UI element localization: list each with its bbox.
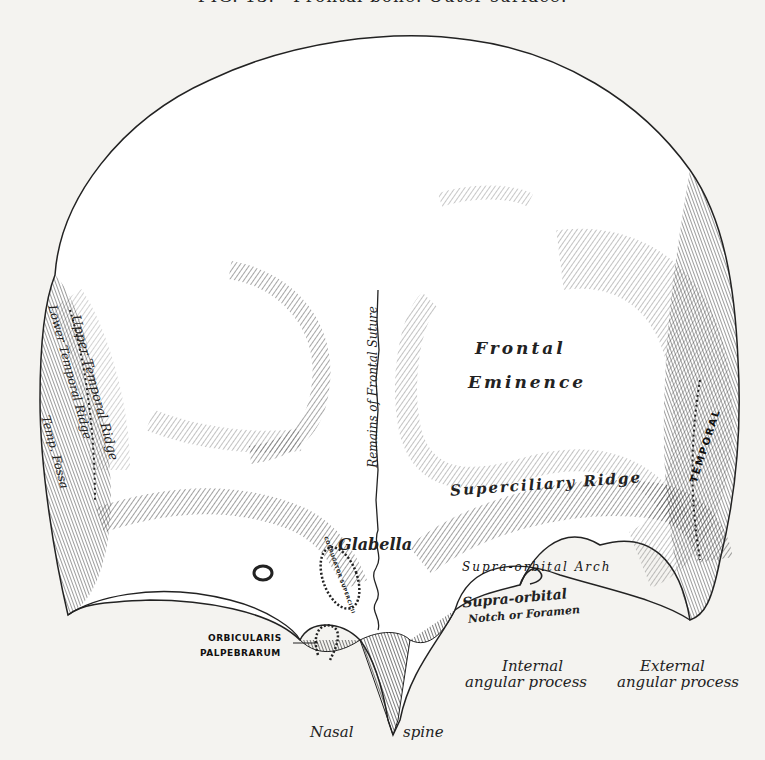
label-frontal: Frontal (475, 338, 566, 358)
label-external-angular-2: angular process (617, 673, 739, 691)
bone-outline (40, 36, 739, 735)
nasal-spine (360, 633, 410, 736)
left-supra-orbital-foramen (254, 566, 272, 580)
label-internal-angular-2: angular process (465, 673, 587, 691)
figure-canvas: FIG. 13.—Frontal bone. Outer surface. (0, 0, 765, 760)
label-orbicularis-1: ORBICULARIS (208, 633, 282, 643)
label-eminence: Eminence (468, 372, 586, 392)
label-spine: spine (403, 723, 444, 741)
frontal-bone-illustration (0, 0, 765, 760)
label-orbicularis-2: PALPEBRARUM (200, 648, 281, 658)
label-nasal: Nasal (310, 723, 354, 741)
label-glabella: Glabella (338, 535, 412, 554)
label-supra-orbital-arch: Supra-orbital Arch (462, 560, 612, 574)
label-remains-frontal-suture: Remains of Frontal Suture (366, 297, 380, 477)
